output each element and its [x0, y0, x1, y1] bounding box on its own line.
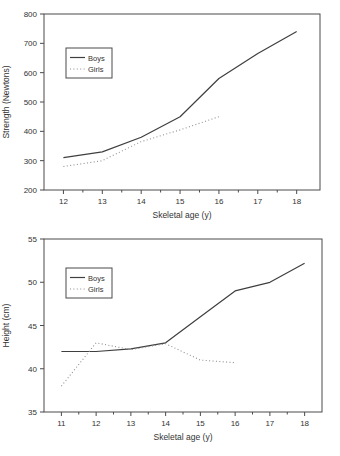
plot-frame	[44, 14, 320, 190]
x-axis-title: Skeletal age (y)	[153, 432, 212, 442]
x-tick-label: 13	[98, 197, 107, 206]
x-tick-label: 16	[231, 419, 240, 428]
strength-chart: 12131415161718200300400500600700800Skele…	[0, 0, 340, 228]
x-tick-label: 14	[137, 197, 146, 206]
y-tick-label: 600	[24, 69, 38, 78]
y-axis: 3540455055	[28, 235, 44, 417]
y-axis: 200300400500600700800	[24, 10, 44, 195]
height-chart-canvas: 11121314151617183540455055Skeletal age (…	[0, 228, 340, 456]
x-axis-title: Skeletal age (y)	[152, 210, 211, 220]
x-tick-label: 17	[265, 419, 274, 428]
y-tick-label: 35	[28, 408, 37, 417]
x-tick-label: 15	[196, 419, 205, 428]
height-chart: 11121314151617183540455055Skeletal age (…	[0, 228, 340, 456]
legend-box: BoysGirls	[66, 48, 112, 78]
series-girls-line	[61, 343, 235, 386]
y-tick-label: 800	[24, 10, 38, 19]
y-axis-title: Strength (Newtons)	[1, 65, 11, 138]
legend-label-boys: Boys	[88, 274, 105, 283]
series-girls-line	[63, 117, 219, 167]
x-tick-label: 12	[92, 419, 101, 428]
x-tick-label: 16	[214, 197, 223, 206]
y-tick-label: 400	[24, 127, 38, 136]
x-tick-label: 15	[176, 197, 185, 206]
x-tick-label: 18	[300, 419, 309, 428]
y-axis-title: Height (cm)	[1, 303, 11, 347]
legend-label-girls: Girls	[88, 65, 104, 74]
x-tick-label: 17	[253, 197, 262, 206]
x-tick-label: 13	[126, 419, 135, 428]
y-tick-label: 300	[24, 157, 38, 166]
legend-label-girls: Girls	[88, 285, 104, 294]
y-tick-label: 40	[28, 365, 37, 374]
y-tick-label: 45	[28, 322, 37, 331]
y-tick-label: 50	[28, 278, 37, 287]
x-tick-label: 18	[292, 197, 301, 206]
plot-frame	[44, 239, 322, 412]
x-axis: 1112131415161718	[57, 412, 309, 428]
y-tick-label: 200	[24, 186, 38, 195]
figure-page: 12131415161718200300400500600700800Skele…	[0, 0, 340, 456]
y-tick-label: 55	[28, 235, 37, 244]
x-axis: 12131415161718	[59, 190, 302, 206]
legend-box: BoysGirls	[66, 268, 112, 298]
legend-label-boys: Boys	[88, 54, 105, 63]
y-tick-label: 500	[24, 98, 38, 107]
x-tick-label: 11	[57, 419, 66, 428]
y-tick-label: 700	[24, 39, 38, 48]
strength-chart-canvas: 12131415161718200300400500600700800Skele…	[0, 0, 340, 228]
x-tick-label: 14	[161, 419, 170, 428]
x-tick-label: 12	[59, 197, 68, 206]
